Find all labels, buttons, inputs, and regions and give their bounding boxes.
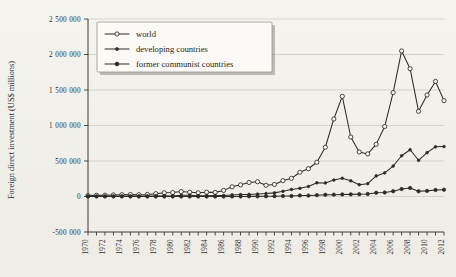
legend-item-label: world — [136, 29, 157, 39]
data-point — [255, 180, 259, 184]
data-point — [349, 179, 352, 182]
data-point — [434, 145, 437, 148]
data-point — [307, 194, 310, 197]
data-point — [400, 187, 403, 190]
data-point — [400, 49, 404, 53]
data-point — [273, 192, 276, 195]
x-tick-label: 2000 — [336, 239, 344, 255]
series-developing-countries — [87, 145, 446, 197]
data-point — [247, 180, 251, 184]
y-tick-label: 500 000 — [55, 158, 81, 166]
data-point — [409, 148, 412, 151]
data-point — [315, 160, 319, 164]
x-tick-label: 1970 — [82, 239, 90, 255]
data-point — [230, 195, 233, 198]
x-tick-label: 2010 — [421, 239, 429, 255]
data-point — [366, 192, 369, 195]
data-point — [408, 67, 412, 71]
x-tick-label: 1972 — [99, 239, 107, 255]
data-point — [306, 167, 310, 171]
data-point — [332, 117, 336, 121]
data-point — [324, 193, 327, 196]
data-point — [349, 193, 352, 196]
data-point — [256, 195, 259, 198]
data-point — [332, 179, 335, 182]
y-tick-label: 2 500 000 — [49, 16, 81, 24]
data-point — [171, 190, 175, 194]
data-point — [222, 195, 225, 198]
data-point — [129, 195, 132, 198]
data-point — [188, 195, 191, 198]
data-point — [349, 135, 353, 139]
fdi-line-chart: -500 0000500 0001 000 0001 500 0002 000 … — [0, 0, 456, 277]
x-tick-label: 1980 — [167, 239, 175, 255]
data-point — [316, 181, 319, 184]
data-point — [332, 193, 335, 196]
data-point — [272, 182, 276, 186]
data-point — [264, 183, 268, 187]
data-point — [196, 195, 199, 198]
data-point — [137, 195, 140, 198]
data-point — [264, 195, 267, 198]
data-point — [443, 145, 446, 148]
data-point — [307, 185, 310, 188]
y-tick-label: 1 000 000 — [49, 122, 81, 130]
data-point — [239, 195, 242, 198]
data-point — [391, 190, 394, 193]
data-point — [392, 165, 395, 168]
data-point — [112, 195, 115, 198]
x-tick-label: 1978 — [150, 239, 158, 255]
data-point — [416, 109, 420, 113]
y-tick-label: 2 000 000 — [49, 51, 81, 59]
data-point — [103, 195, 106, 198]
data-point — [180, 195, 183, 198]
data-point — [417, 159, 420, 162]
data-point — [120, 195, 123, 198]
data-point — [341, 193, 344, 196]
data-point — [341, 177, 344, 180]
x-tick-label: 1988 — [235, 239, 243, 255]
x-tick-label: 1982 — [184, 239, 192, 255]
y-tick-label: 0 — [77, 193, 81, 201]
y-axis-tick-labels: -500 0000500 0001 000 0001 500 0002 000 … — [49, 16, 81, 237]
y-tick-label: 1 500 000 — [49, 87, 81, 95]
data-point — [442, 99, 446, 103]
data-point — [400, 154, 403, 157]
y-axis-ticks — [84, 19, 88, 232]
data-point — [290, 188, 293, 191]
data-point — [281, 194, 284, 197]
data-point — [358, 183, 361, 186]
data-point — [289, 176, 293, 180]
x-tick-label: 1994 — [285, 239, 293, 255]
x-tick-label: 1998 — [319, 239, 327, 255]
y-tick-label: -500 000 — [52, 229, 81, 237]
x-axis-tick-labels: 1970197219741976197819801982198419861988… — [82, 239, 446, 255]
data-point — [383, 172, 386, 175]
x-axis-ticks — [88, 232, 444, 236]
data-point — [222, 188, 226, 192]
x-tick-label: 1976 — [133, 239, 141, 255]
data-point — [179, 189, 183, 193]
x-tick-label: 1984 — [201, 239, 209, 255]
data-point — [425, 93, 429, 97]
x-tick-label: 1986 — [218, 239, 226, 255]
data-point — [366, 152, 370, 156]
data-point — [383, 191, 386, 194]
data-point — [205, 190, 209, 194]
data-point — [281, 179, 285, 183]
data-point — [366, 182, 369, 185]
data-point — [383, 124, 387, 128]
data-point — [426, 151, 429, 154]
data-point — [213, 195, 216, 198]
data-point — [95, 195, 98, 198]
y-axis-title: Foreign direct investment (US$ millions) — [7, 61, 16, 199]
chart-legend: worlddeveloping countriesformer communis… — [97, 22, 275, 75]
x-tick-label: 2012 — [438, 239, 446, 255]
data-point — [163, 195, 166, 198]
data-point — [154, 195, 157, 198]
legend-item-label: former communist countries — [136, 59, 234, 69]
data-point — [205, 195, 208, 198]
data-point — [298, 194, 301, 197]
series-line — [88, 147, 444, 197]
data-point — [290, 194, 293, 197]
